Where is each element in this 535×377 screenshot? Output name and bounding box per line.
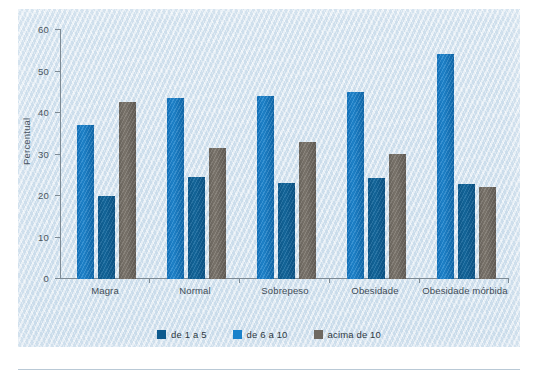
y-tick-label-0: 0 [44, 273, 49, 284]
bar-group-magra [61, 29, 151, 279]
y-tick-label-40: 40 [38, 107, 49, 118]
chart-legend: de 1 a 5 de 6 a 10 acima de 10 [18, 329, 520, 340]
bar-groups [61, 29, 510, 279]
legend-swatch-icon-acima-de-10 [314, 330, 323, 339]
x-tick-1 [149, 279, 150, 283]
bar-normal-de-6-a-10[interactable] [167, 98, 184, 279]
y-tick-label-50: 50 [38, 65, 49, 76]
y-tick-label-60: 60 [38, 24, 49, 35]
y-tick-10: 10 [55, 237, 60, 238]
x-label-obesidade-morbida: Obesidade mórbida [422, 285, 507, 296]
figure-page: Percentual 60 50 40 30 20 10 0 [0, 0, 535, 377]
plot-area: 60 50 40 30 20 10 0 [60, 29, 510, 288]
legend-item-de-6-a-10[interactable]: de 6 a 10 [233, 329, 288, 340]
footer-divider [18, 369, 520, 370]
x-label-obesidade: Obesidade [351, 285, 398, 296]
x-tick-3 [329, 279, 330, 283]
x-label-normal: Normal [179, 285, 211, 296]
x-tick-4 [419, 279, 420, 283]
y-tick-50: 50 [55, 71, 60, 72]
bar-obesidade-de-1-a-5[interactable] [368, 178, 385, 279]
bar-group-obesidade-morbida [421, 29, 511, 279]
bar-obesidade-de-6-a-10[interactable] [347, 92, 364, 279]
y-tick-0: 0 [55, 278, 60, 279]
bar-magra-acima-de-10[interactable] [119, 102, 136, 279]
bar-obesidade-morbida-de-1-a-5[interactable] [458, 184, 475, 279]
bar-group-sobrepeso [241, 29, 331, 279]
y-tick-20: 20 [55, 195, 60, 196]
bar-group-normal [151, 29, 241, 279]
y-axis-title: Percentual [21, 118, 32, 165]
y-tick-label-20: 20 [38, 190, 49, 201]
bar-sobrepeso-de-6-a-10[interactable] [257, 96, 274, 279]
legend-label-acima-de-10: acima de 10 [328, 329, 381, 340]
y-tick-label-30: 30 [38, 148, 49, 159]
y-tick-60: 60 [55, 29, 60, 30]
x-label-sobrepeso: Sobrepeso [261, 285, 308, 296]
bar-normal-acima-de-10[interactable] [209, 148, 226, 279]
y-tick-40: 40 [55, 112, 60, 113]
y-tick-30: 30 [55, 154, 60, 155]
legend-swatch-icon-de-6-a-10 [233, 330, 242, 339]
bar-magra-de-1-a-5[interactable] [98, 196, 115, 279]
y-tick-label-10: 10 [38, 231, 49, 242]
bar-sobrepeso-de-1-a-5[interactable] [278, 183, 295, 279]
legend-swatch-icon-de-1-a-5 [157, 330, 166, 339]
legend-item-acima-de-10[interactable]: acima de 10 [314, 329, 381, 340]
bar-magra-de-6-a-10[interactable] [77, 125, 94, 279]
x-label-magra: Magra [91, 285, 119, 296]
bar-sobrepeso-acima-de-10[interactable] [299, 142, 316, 279]
bar-obesidade-morbida-acima-de-10[interactable] [479, 187, 496, 279]
legend-label-de-6-a-10: de 6 a 10 [247, 329, 288, 340]
legend-label-de-1-a-5: de 1 a 5 [171, 329, 207, 340]
bar-obesidade-acima-de-10[interactable] [389, 154, 406, 279]
bar-group-obesidade [331, 29, 421, 279]
bar-normal-de-1-a-5[interactable] [188, 177, 205, 280]
bar-obesidade-morbida-de-6-a-10[interactable] [437, 54, 454, 279]
x-tick-2 [239, 279, 240, 283]
legend-item-de-1-a-5[interactable]: de 1 a 5 [157, 329, 207, 340]
x-tick-5 [508, 279, 509, 283]
